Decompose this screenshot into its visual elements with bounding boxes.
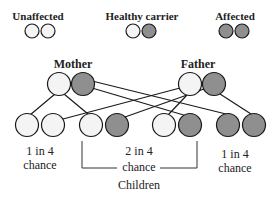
legend-carrier-label: Healthy carrier xyxy=(106,10,179,22)
child-3-allele-2 xyxy=(179,114,202,137)
child-2-allele-2 xyxy=(106,114,129,137)
child-3-allele-1 xyxy=(153,114,176,137)
mother-label: Mother xyxy=(54,57,93,71)
group-1-line2: chance xyxy=(23,158,56,172)
children-label: Children xyxy=(118,178,160,192)
legend-unaffected-circle-2 xyxy=(41,24,55,38)
group-1-line1: 1 in 4 xyxy=(26,144,53,158)
legend-carrier-circle-1 xyxy=(126,24,140,38)
father-allele-white xyxy=(179,73,202,96)
legend-unaffected-label: Unaffected xyxy=(12,10,63,22)
father-label: Father xyxy=(181,57,216,71)
mother-allele-grey xyxy=(72,73,95,96)
legend-affected-circle-2 xyxy=(235,24,249,38)
group-2-line1: 2 in 4 xyxy=(125,144,152,158)
group-3-line1: 1 in 4 xyxy=(221,147,248,161)
child-1-allele-2 xyxy=(42,114,65,137)
bracket-right xyxy=(160,141,197,168)
father-allele-grey xyxy=(203,73,226,96)
legend-unaffected-circle-1 xyxy=(25,24,39,38)
child-4-allele-1 xyxy=(217,114,240,137)
child-4-allele-2 xyxy=(243,114,266,137)
group-3-line2: chance xyxy=(218,161,251,175)
group-2-line2: chance xyxy=(122,160,155,174)
inheritance-diagram: Unaffected Healthy carrier Affected Moth… xyxy=(0,0,275,199)
bracket-left xyxy=(82,141,117,168)
legend-carrier-circle-2 xyxy=(142,24,156,38)
mother-allele-white xyxy=(48,73,71,96)
child-1-allele-1 xyxy=(16,114,39,137)
legend-affected-label: Affected xyxy=(215,10,255,22)
child-2-allele-1 xyxy=(80,114,103,137)
legend-affected-circle-1 xyxy=(219,24,233,38)
